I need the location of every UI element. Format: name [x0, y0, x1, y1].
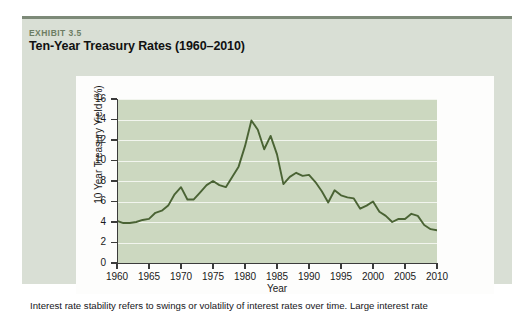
x-tick-mark — [404, 263, 405, 269]
x-tick-mark — [436, 263, 437, 269]
exhibit-page: EXHIBIT 3.5 Ten-Year Treasury Rates (196… — [0, 0, 530, 320]
x-tick-mark — [340, 263, 341, 269]
y-tick-label: 2 — [76, 236, 106, 247]
y-axis-line — [117, 99, 118, 263]
y-tick-mark — [111, 119, 117, 120]
x-tick-mark — [148, 263, 149, 269]
chart-card: 0246810121416 19601965197019751980198519… — [76, 76, 494, 294]
exhibit-label: EXHIBIT 3.5 — [29, 28, 82, 38]
y-tick-mark — [111, 160, 117, 161]
series-line-treasury-yield — [117, 99, 437, 263]
exhibit-box: EXHIBIT 3.5 Ten-Year Treasury Rates (196… — [22, 16, 512, 284]
x-tick-mark — [244, 263, 245, 269]
y-tick-mark — [111, 221, 117, 222]
x-tick-label: 2010 — [417, 271, 457, 282]
x-tick-mark — [180, 263, 181, 269]
y-tick-mark — [111, 242, 117, 243]
y-tick-mark — [111, 201, 117, 202]
x-tick-mark — [372, 263, 373, 269]
y-tick-label: 0 — [76, 257, 106, 268]
body-caption-text: Interest rate stability refers to swings… — [30, 300, 510, 311]
plot-area — [117, 99, 437, 263]
exhibit-title: Ten-Year Treasury Rates (1960–2010) — [29, 39, 245, 53]
x-tick-mark — [212, 263, 213, 269]
x-tick-mark — [276, 263, 277, 269]
y-tick-mark — [111, 180, 117, 181]
y-tick-mark — [111, 98, 117, 99]
x-axis-title: Year — [117, 283, 437, 294]
x-tick-mark — [308, 263, 309, 269]
y-axis-title: 10 Year Treasury Yield (%) — [93, 55, 104, 235]
x-tick-mark — [116, 263, 117, 269]
line-chart: 0246810121416 19601965197019751980198519… — [76, 76, 494, 294]
y-tick-mark — [111, 139, 117, 140]
exhibit-top-rule — [22, 16, 512, 19]
